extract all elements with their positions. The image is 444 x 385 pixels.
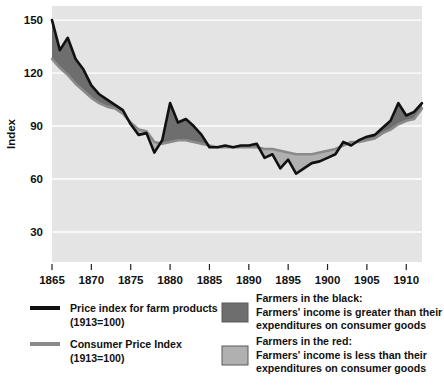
- legend-line-label-0-b: (1913=100): [70, 316, 124, 328]
- dark-gray-fill-swatch: [222, 303, 248, 322]
- xtick-label-1870: 1870: [79, 274, 105, 286]
- ytick-label-30: 30: [30, 226, 43, 238]
- y-axis-title: Index: [5, 118, 17, 149]
- legend-line-label-1-a: Consumer Price Index: [70, 338, 182, 350]
- ytick-label-60: 60: [30, 173, 43, 185]
- ytick-label-150: 150: [24, 14, 43, 26]
- xtick-label-1900: 1900: [315, 274, 341, 286]
- legend-fill-label-1-0: Farmers in the red:: [256, 335, 352, 347]
- legend-fill-label-0-2: expenditures on consumer goods: [256, 319, 426, 331]
- xtick-label-1875: 1875: [118, 274, 144, 286]
- legend-fill-label-0-0: Farmers in the black:: [256, 292, 363, 304]
- legend-fill-label-0-1: Farmers' income is greater than their: [256, 306, 442, 318]
- xtick-label-1905: 1905: [354, 274, 380, 286]
- xtick-label-1880: 1880: [157, 274, 183, 286]
- price-index-chart: 306090120150Index18651870187518801885189…: [0, 0, 444, 385]
- ytick-label-90: 90: [30, 120, 43, 132]
- xtick-label-1910: 1910: [393, 274, 419, 286]
- light-gray-fill-swatch: [222, 346, 248, 365]
- legend-line-label-0-a: Price index for farm products: [70, 302, 218, 314]
- xtick-label-1865: 1865: [39, 274, 65, 286]
- legend-fill-label-1-2: expenditures on consumer goods: [256, 362, 426, 374]
- legend-fill-label-1-1: Farmers' income is less than their: [256, 349, 427, 361]
- xtick-label-1895: 1895: [275, 274, 301, 286]
- xtick-label-1885: 1885: [197, 274, 223, 286]
- plot-area-background: [52, 6, 422, 262]
- farm-price-index-figure: 306090120150Index18651870187518801885189…: [0, 0, 444, 385]
- xtick-label-1890: 1890: [236, 274, 262, 286]
- legend-line-label-1-b: (1913=100): [70, 352, 124, 364]
- ytick-label-120: 120: [24, 67, 43, 79]
